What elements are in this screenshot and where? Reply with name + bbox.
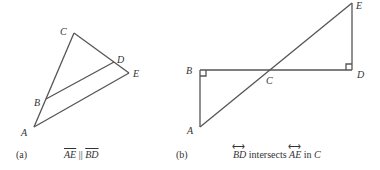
figure-b-lines — [200, 3, 352, 127]
label-D-a: D — [117, 55, 124, 65]
caption-b: BD intersects AE in C — [233, 150, 321, 160]
caption-b-id: (b) — [176, 150, 188, 160]
caption-a: AE || BD — [64, 150, 99, 160]
caption-a-rel: || — [79, 149, 83, 160]
right-angle-marker-D — [346, 64, 352, 70]
label-C-a: C — [60, 27, 67, 37]
caption-a-id: (a) — [16, 150, 27, 160]
right-angle-marker-B — [200, 70, 206, 76]
label-B-a: B — [34, 98, 40, 108]
caption-b-line1: BD — [233, 150, 246, 160]
caption-b-point: C — [314, 149, 321, 160]
figure-a-lines — [34, 33, 129, 127]
label-B-b: B — [186, 66, 192, 76]
caption-a-seg2: BD — [85, 149, 98, 160]
segment-CE — [74, 33, 129, 73]
label-A-b: A — [187, 126, 193, 136]
label-E-b: E — [356, 1, 362, 11]
caption-a-seg1: AE — [64, 149, 76, 160]
caption-b-in: in — [304, 149, 312, 160]
geometry-diagram — [0, 0, 380, 170]
caption-b-line2: AE — [289, 150, 301, 160]
segment-AE — [200, 3, 352, 127]
label-C-b: C — [266, 76, 273, 86]
label-A-a: A — [21, 128, 27, 138]
label-D-b: D — [357, 70, 364, 80]
segment-AE — [34, 73, 129, 127]
label-E-a: E — [133, 69, 139, 79]
segment-BD — [46, 62, 114, 99]
caption-b-mid: intersects — [249, 149, 287, 160]
segment-AC — [34, 33, 74, 127]
